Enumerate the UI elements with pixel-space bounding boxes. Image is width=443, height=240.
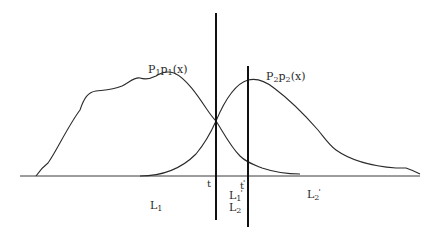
region-label-L2: L2 bbox=[229, 202, 241, 215]
region-label-L2-prime: L2' bbox=[307, 188, 321, 202]
L1-prime-mark: ' bbox=[240, 188, 242, 197]
p1-label-p: p bbox=[161, 63, 168, 76]
p2-label-p: p bbox=[279, 70, 286, 83]
t-label-text: t bbox=[207, 178, 211, 189]
L2-sub: 2 bbox=[236, 206, 241, 215]
p1-curve-label: P1p1(x) bbox=[148, 64, 187, 77]
density-threshold-diagram: P1p1(x) P2p2(x) t t' L1 L1' L2 L2' bbox=[0, 0, 443, 240]
p2-density-curve bbox=[140, 79, 420, 176]
L2-prime-mark: ' bbox=[318, 187, 320, 196]
region-label-L1: L1 bbox=[150, 200, 162, 213]
diagram-canvas bbox=[0, 0, 443, 240]
t-prime-mark: ' bbox=[243, 178, 245, 187]
threshold-label-t: t bbox=[207, 179, 211, 189]
L1-sub: 1 bbox=[157, 204, 162, 213]
p1-density-curve bbox=[36, 72, 300, 176]
p2-label-x: (x) bbox=[291, 70, 306, 83]
p2-curve-label: P2p2(x) bbox=[266, 71, 305, 84]
p1-label-x: (x) bbox=[173, 63, 188, 76]
